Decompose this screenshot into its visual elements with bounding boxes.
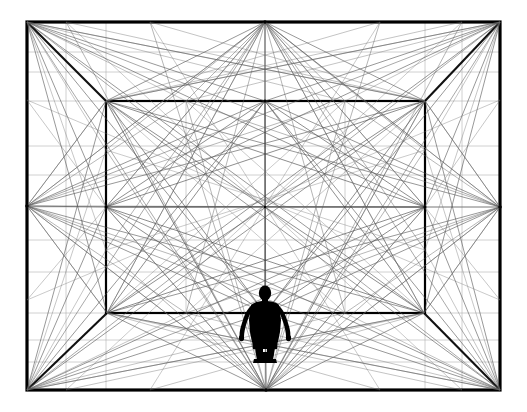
artwork-canvas: Black and white one-point perspective dr… (0, 0, 527, 412)
perspective-room-drawing (0, 0, 527, 412)
